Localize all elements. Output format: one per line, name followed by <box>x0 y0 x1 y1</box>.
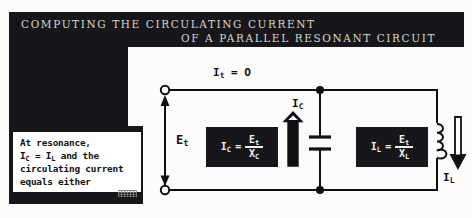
capacitor-formula-denominator: XC <box>248 148 260 160</box>
inductor-formula-denominator-subscript: L <box>405 152 409 161</box>
note-line-1: At resonance, <box>20 137 91 148</box>
capacitor-symbol <box>309 137 331 149</box>
inductor-formula-denominator: XL <box>398 148 410 160</box>
total-current-value: = O <box>231 66 251 79</box>
inductor-symbol <box>437 124 446 158</box>
inductor-formula-fraction: Et XL <box>395 135 413 160</box>
capacitor-current-arrow <box>284 112 302 166</box>
capacitor-formula-lhs: IC <box>221 142 231 152</box>
inductor-formula: IL = Et XL <box>371 135 413 160</box>
scan-artifact-speckle <box>118 190 137 197</box>
source-voltage-arrow <box>161 95 170 186</box>
terminal-top <box>161 86 169 94</box>
source-voltage-subscript: t <box>183 138 188 148</box>
junction-dot-bottom <box>316 186 324 194</box>
capacitor-formula: IC = Et XC <box>221 135 263 160</box>
capacitor-current-symbol: I <box>292 97 299 110</box>
resonance-note-text: At resonance, IC = IL and the circulatin… <box>20 137 142 188</box>
inductor-formula-numerator-subscript: t <box>405 138 409 147</box>
inductor-current-subscript: L <box>450 176 455 185</box>
inductor-formula-equals: = <box>385 142 391 152</box>
resonance-note-box: At resonance, IC = IL and the circulatin… <box>12 131 142 193</box>
total-current-symbol: I <box>213 66 220 79</box>
inductor-formula-numerator: Et <box>398 135 410 147</box>
note-line-4: equals either <box>20 176 91 187</box>
note-line-2-b: = I <box>29 150 51 161</box>
capacitor-formula-equals: = <box>235 142 241 152</box>
inductor-current-arrow <box>451 117 465 168</box>
note-line-2-sub-a: C <box>25 155 29 163</box>
inductor-formula-lhs-symbol: I <box>371 141 377 152</box>
capacitor-formula-box: IC = Et XC <box>206 127 278 167</box>
note-line-3: circulating current <box>20 163 123 174</box>
capacitor-formula-denominator-subscript: C <box>255 152 259 161</box>
terminal-bottom <box>161 186 169 194</box>
total-current-subscript: t <box>220 71 225 80</box>
inductor-formula-lhs: IL <box>371 142 381 152</box>
capacitor-current-label: IC <box>292 97 303 110</box>
capacitor-formula-lhs-subscript: C <box>227 145 231 154</box>
inductor-formula-box: IL = Et XL <box>356 127 428 167</box>
note-line-2-c: and the <box>55 150 99 161</box>
capacitor-formula-numerator: Et <box>248 135 260 147</box>
capacitor-current-subscript: C <box>299 102 304 111</box>
capacitor-formula-lhs-symbol: I <box>221 141 227 152</box>
figure-root: COMPUTING THE CIRCULATING CURRENT OF A P… <box>0 0 472 218</box>
capacitor-formula-numerator-subscript: t <box>255 138 259 147</box>
note-line-2-sub-b: L <box>51 155 55 163</box>
capacitor-formula-fraction: Et XC <box>245 135 263 160</box>
inductor-current-label: IL <box>443 171 454 184</box>
inductor-current-symbol: I <box>443 171 450 184</box>
junction-dot-top <box>316 86 324 94</box>
source-voltage-label: Et <box>176 133 188 147</box>
total-current-label: It = O <box>213 66 251 79</box>
inductor-formula-lhs-subscript: L <box>377 145 381 154</box>
